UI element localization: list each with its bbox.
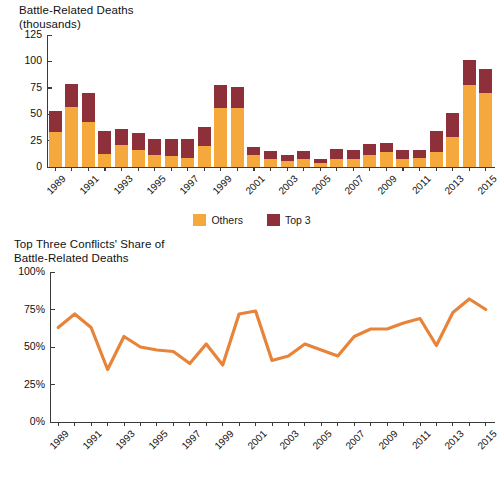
line-x-tick-2001 [255, 422, 256, 426]
bar-segment-others [98, 154, 111, 167]
line-x-tick-2007 [354, 422, 355, 426]
bar-column[interactable] [396, 150, 409, 167]
bar-segment-others [479, 93, 492, 167]
bar-column[interactable] [347, 150, 360, 167]
bar-column[interactable] [165, 139, 178, 168]
bar-segment-others [181, 158, 194, 168]
line-x-tick-1995 [156, 422, 157, 426]
bar-segment-others [380, 152, 393, 167]
bar-segment-top3 [264, 151, 277, 159]
bar-segment-top3 [132, 133, 145, 149]
bar-x-tick-2001 [253, 167, 254, 171]
legend-item[interactable]: Others [193, 214, 243, 226]
bar-column[interactable] [181, 139, 194, 167]
bar-x-tick-1998 [204, 167, 205, 171]
bar-column[interactable] [463, 60, 476, 167]
bar-segment-others [115, 145, 128, 167]
bar-x-tick-2000 [237, 167, 238, 171]
bar-y-tick-label-100: 100 [24, 54, 42, 66]
bar-column[interactable] [363, 144, 376, 167]
bar-segment-others [65, 107, 78, 167]
bar-x-tick-1991 [88, 167, 89, 171]
bar-y-tick-label-0: 0 [36, 160, 42, 172]
bar-segment-others [396, 159, 409, 167]
line-x-tick-2013 [452, 422, 453, 426]
bar-column[interactable] [115, 129, 128, 167]
bar-column[interactable] [148, 139, 161, 168]
bar-segment-top3 [446, 113, 459, 137]
bar-column[interactable] [430, 131, 443, 167]
bar-column[interactable] [198, 127, 211, 167]
bar-x-tick-1992 [104, 167, 105, 171]
bar-column[interactable] [65, 84, 78, 167]
bar-y-tick-label-50: 50 [30, 107, 42, 119]
bar-y-tick-label-75: 75 [30, 81, 42, 93]
bar-column[interactable] [247, 147, 260, 167]
bar-x-tick-1996 [171, 167, 172, 171]
chart-legend: OthersTop 3 [0, 214, 504, 226]
bar-x-tick-2003 [287, 167, 288, 171]
line-x-tick-1999 [222, 422, 223, 426]
line-x-tick-2000 [239, 422, 240, 426]
line-x-tick-2006 [337, 422, 338, 426]
bar-column[interactable] [231, 87, 244, 167]
line-y-tick-label-0: 0% [30, 415, 45, 427]
bar-segment-top3 [148, 139, 161, 155]
bar-column[interactable] [297, 151, 310, 167]
bar-segment-top3 [198, 127, 211, 145]
line-chart-plot-area [50, 272, 494, 422]
bar-segment-others [363, 155, 376, 167]
line-y-tick-label-50: 50% [24, 340, 45, 352]
line-x-tick-2012 [436, 422, 437, 426]
legend-swatch-others [193, 214, 206, 226]
line-x-tick-1990 [74, 422, 75, 426]
line-x-tick-1989 [58, 422, 59, 426]
bar-column[interactable] [330, 149, 343, 167]
line-y-tick-label-25: 25% [24, 378, 45, 390]
bar-x-tick-2007 [353, 167, 354, 171]
line-x-tick-2002 [272, 422, 273, 426]
bar-column[interactable] [380, 143, 393, 167]
bar-column[interactable] [314, 159, 327, 167]
bar-segment-top3 [347, 150, 360, 160]
legend-swatch-top-3 [267, 214, 280, 226]
battle-related-deaths-bar-chart: Battle-Related Deaths (thousands) 125100… [0, 0, 504, 215]
bar-x-tick-1999 [220, 167, 221, 171]
bar-column[interactable] [264, 151, 277, 167]
bar-x-tick-2006 [336, 167, 337, 171]
bar-segment-top3 [231, 87, 244, 109]
bar-column[interactable] [49, 111, 62, 167]
line-x-tick-1993 [124, 422, 125, 426]
bar-segment-top3 [65, 84, 78, 107]
bar-column[interactable] [82, 93, 95, 167]
legend-item[interactable]: Top 3 [267, 214, 311, 226]
bar-chart-plot-area [47, 35, 494, 167]
bar-column[interactable] [413, 150, 426, 167]
bar-column[interactable] [214, 85, 227, 167]
bar-x-tick-2011 [419, 167, 420, 171]
bar-segment-others [281, 161, 294, 167]
line-x-tick-2014 [469, 422, 470, 426]
bar-column[interactable] [132, 133, 145, 167]
bar-segment-others [49, 132, 62, 167]
bar-segment-others [347, 159, 360, 167]
bar-y-tick-label-125: 125 [24, 28, 42, 40]
bar-segment-top3 [363, 144, 376, 155]
bar-x-tick-2013 [452, 167, 453, 171]
bar-column[interactable] [281, 155, 294, 167]
line-x-tick-2004 [304, 422, 305, 426]
bar-segment-others [330, 159, 343, 167]
bar-column[interactable] [98, 131, 111, 167]
bar-segment-top3 [430, 131, 443, 152]
bar-x-tick-2008 [369, 167, 370, 171]
bar-column[interactable] [479, 69, 492, 167]
bar-column[interactable] [446, 113, 459, 167]
line-x-tick-1994 [140, 422, 141, 426]
line-x-tick-1996 [173, 422, 174, 426]
bar-segment-others [132, 150, 145, 167]
legend-label: Top 3 [285, 214, 311, 226]
bar-x-tick-1994 [138, 167, 139, 171]
bar-segment-others [446, 137, 459, 167]
bar-segment-top3 [82, 93, 95, 122]
line-x-tick-2011 [420, 422, 421, 426]
